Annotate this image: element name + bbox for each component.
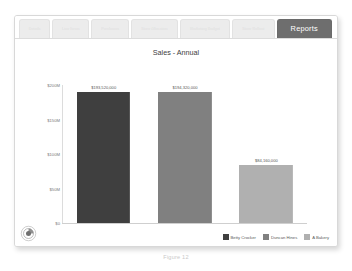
legend-item[interactable]: A Bakery [304,234,329,240]
tab-label: Reports [290,25,319,33]
tab-bar: DetailsLine ItemsPurchasesStore Allocati… [15,16,337,38]
legend-swatch [263,234,269,240]
bar-group: $193,520,000 [77,85,131,223]
chart-legend: Betty CrockerDuncan HinesA Bakery [15,234,329,240]
legend-label: A Bakery [312,235,329,240]
application-window: DetailsLine ItemsPurchasesStore Allocati… [14,15,338,247]
tab-reports[interactable]: Reports [277,19,332,38]
tab-store-allocation[interactable]: Store Allocation [131,19,178,38]
tab-store-rollout[interactable]: Store Rollout [232,19,274,38]
figure-caption: Figure 12 [0,254,352,260]
legend-item[interactable]: Duncan Hines [263,234,297,240]
legend-item[interactable]: Betty Crocker [223,234,256,240]
y-axis-tick-label: $200M [47,83,60,88]
bar-value-label: $194,320,000 [172,85,197,90]
bar[interactable] [239,165,293,223]
plot-area: $0$50M$100M$150M$200M$193,520,000$194,32… [63,85,307,223]
tab-line-items[interactable]: Line Items [52,19,89,38]
tab-marketing-budget[interactable]: Marketing Budget [180,19,230,38]
tab-label: Store Allocation [140,27,169,31]
x-axis-line [62,223,307,224]
legend-label: Duncan Hines [271,235,297,240]
tab-label: Purchases [100,27,120,31]
tab-details[interactable]: Details [19,19,50,38]
y-axis-tick-label: $50M [50,186,60,191]
legend-swatch [304,234,310,240]
tab-purchases[interactable]: Purchases [91,19,128,38]
y-axis-tick-label: $150M [47,117,60,122]
bar-value-label: $193,520,000 [91,85,116,90]
bar-value-label: $84,160,000 [255,158,278,163]
tab-label: Store Rollout [241,27,265,31]
circle-swirl-logo-icon [20,225,37,242]
bar[interactable] [158,92,212,223]
chart-title: Sales - Annual [15,48,337,57]
bar-group: $84,160,000 [239,85,293,223]
report-chart-panel: Sales - Annual $0$50M$100M$150M$200M$193… [15,38,337,246]
tab-label: Marketing Budget [189,27,221,31]
y-axis-tick-label: $0 [55,221,60,226]
bar[interactable] [77,92,131,223]
legend-label: Betty Crocker [231,235,256,240]
legend-swatch [223,234,229,240]
tab-label: Line Items [61,27,81,31]
tab-label: Details [28,27,42,31]
bar-group: $194,320,000 [158,85,212,223]
y-axis-tick-label: $100M [47,152,60,157]
